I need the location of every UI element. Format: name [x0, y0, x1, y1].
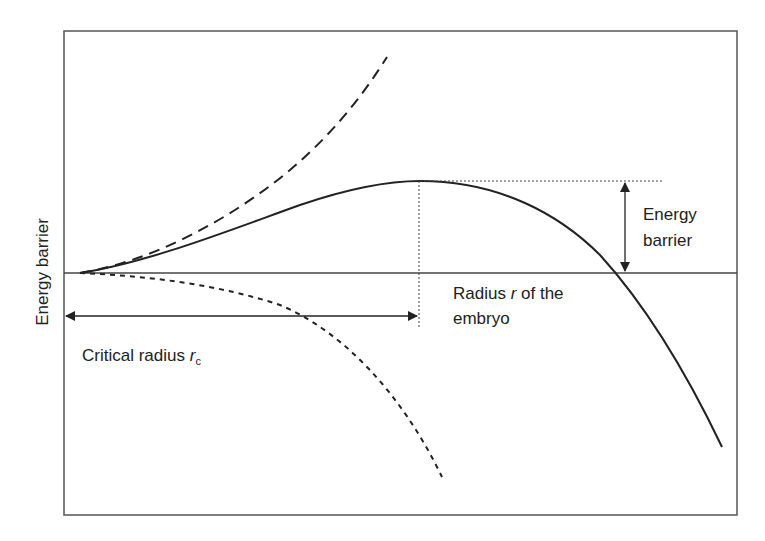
- energy-barrier-label: Energy: [643, 205, 697, 224]
- surface-energy-curve: [80, 57, 387, 273]
- nucleation-diagram: Energy barrier Energy barrier Radius r o…: [0, 0, 765, 541]
- energy-barrier-label-line2: barrier: [643, 231, 692, 250]
- radius-label-line2: embryo: [453, 309, 510, 328]
- volume-energy-curve: [80, 273, 442, 477]
- critical-radius-label: Critical radius rc: [82, 346, 201, 367]
- radius-label: Radius r of the: [453, 284, 564, 303]
- y-axis-label: Energy barrier: [33, 218, 52, 326]
